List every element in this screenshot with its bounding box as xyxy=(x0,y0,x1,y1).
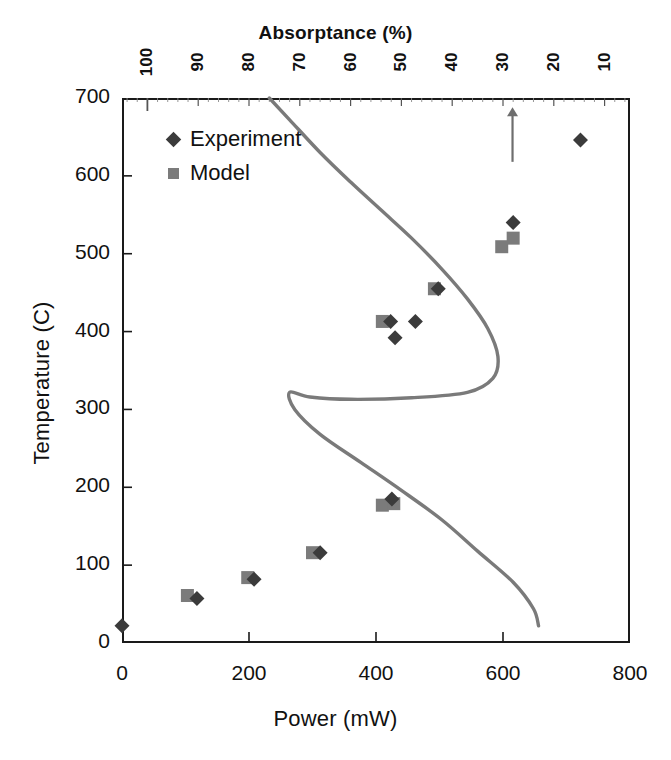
top-tick-label: 80 xyxy=(239,42,259,82)
top-tick-label: 10 xyxy=(595,42,615,82)
top-axis-title: Absorptance (%) xyxy=(0,22,671,44)
top-tick-label: 70 xyxy=(290,42,310,82)
x-tick-label: 400 xyxy=(341,661,411,685)
top-tick-label: 40 xyxy=(442,42,462,82)
legend-label: Model xyxy=(190,160,250,186)
data-point-square xyxy=(495,240,508,253)
top-tick-label: 90 xyxy=(188,42,208,82)
y-tick-label: 0 xyxy=(40,629,110,653)
legend-item: Model xyxy=(160,156,380,190)
x-axis-title: Power (mW) xyxy=(0,706,671,732)
y-tick-label: 100 xyxy=(40,551,110,575)
y-tick-label: 300 xyxy=(40,395,110,419)
y-tick-label: 400 xyxy=(40,318,110,342)
x-tick-label: 800 xyxy=(595,661,665,685)
series-model-points xyxy=(181,232,520,602)
top-tick-label: 50 xyxy=(391,42,411,82)
annotation-arrow xyxy=(507,107,518,162)
legend-marker-swatch xyxy=(168,168,179,179)
legend-label: Experiment xyxy=(190,126,301,152)
arrow-head xyxy=(507,107,518,116)
y-tick-label: 700 xyxy=(40,84,110,108)
diamond-marker-icon xyxy=(160,134,186,145)
y-tick-label: 600 xyxy=(40,162,110,186)
top-tick-label: 20 xyxy=(544,42,564,82)
data-point-diamond xyxy=(408,314,423,329)
chart-legend: ExperimentModel xyxy=(160,122,380,190)
chart-figure: Absorptance (%) 100908070605040302010 Te… xyxy=(0,0,671,760)
y-tick-label: 500 xyxy=(40,240,110,264)
square-marker-icon xyxy=(160,168,186,179)
top-tick-label: 100 xyxy=(137,42,157,82)
legend-marker-swatch xyxy=(165,131,181,147)
top-tick-label: 60 xyxy=(341,42,361,82)
data-point-diamond xyxy=(506,215,521,230)
data-point-diamond xyxy=(115,618,130,633)
x-tick-label: 600 xyxy=(468,661,538,685)
top-tick-label: 30 xyxy=(493,42,513,82)
data-point-diamond xyxy=(573,133,588,148)
series-experiment-points xyxy=(115,133,588,634)
x-tick-label: 0 xyxy=(87,661,157,685)
data-point-diamond xyxy=(388,330,403,345)
y-tick-label: 200 xyxy=(40,473,110,497)
data-point-square xyxy=(507,232,520,245)
legend-item: Experiment xyxy=(160,122,380,156)
x-tick-label: 200 xyxy=(214,661,284,685)
